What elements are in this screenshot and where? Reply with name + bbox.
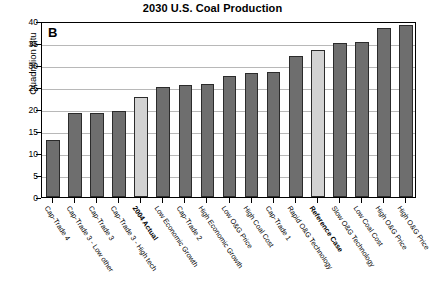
y-tick-label: 25 xyxy=(8,83,38,93)
bar xyxy=(90,113,104,197)
x-tick-mark xyxy=(339,198,340,203)
y-tick-label: 15 xyxy=(8,127,38,137)
x-tick-mark xyxy=(96,198,97,203)
bar xyxy=(267,72,281,197)
y-tick-label: 10 xyxy=(8,149,38,159)
bar xyxy=(377,28,391,197)
plot-area xyxy=(41,22,416,198)
x-tick-mark xyxy=(317,198,318,203)
x-tick-mark xyxy=(251,198,252,203)
bar xyxy=(399,25,413,197)
panel-letter: B xyxy=(48,25,57,40)
bar-series xyxy=(42,23,415,197)
bar xyxy=(46,140,60,197)
x-tick-mark xyxy=(118,198,119,203)
bar xyxy=(289,56,303,197)
x-tick-mark xyxy=(229,198,230,203)
bar xyxy=(355,42,369,197)
y-tick-label: 0 xyxy=(8,193,38,203)
y-tick-label: 20 xyxy=(8,105,38,115)
x-tick-mark xyxy=(184,198,185,203)
x-tick-mark xyxy=(52,198,53,203)
chart-title: 2030 U.S. Coal Production xyxy=(0,2,425,14)
bar xyxy=(223,76,237,197)
bar xyxy=(311,50,325,197)
x-tick-mark xyxy=(206,198,207,203)
bar xyxy=(112,111,126,197)
x-axis-labels: Cap-Trade 4Cap-Trade 3 - Low otherCap-Tr… xyxy=(41,204,416,299)
y-tick-label: 30 xyxy=(8,61,38,71)
x-tick-mark xyxy=(273,198,274,203)
x-tick-mark xyxy=(74,198,75,203)
y-tick-label: 35 xyxy=(8,39,38,49)
bar xyxy=(245,73,259,197)
bar xyxy=(68,113,82,197)
bar xyxy=(134,97,148,197)
x-tick-mark xyxy=(405,198,406,203)
y-tick-label: 40 xyxy=(8,17,38,27)
x-tick-mark xyxy=(361,198,362,203)
bar xyxy=(156,87,170,197)
y-tick-label: 5 xyxy=(8,171,38,181)
bar xyxy=(333,43,347,197)
x-tick-mark xyxy=(383,198,384,203)
bar xyxy=(179,85,193,197)
x-tick-mark xyxy=(162,198,163,203)
x-tick-mark xyxy=(140,198,141,203)
x-tick-mark xyxy=(295,198,296,203)
bar xyxy=(201,84,215,197)
